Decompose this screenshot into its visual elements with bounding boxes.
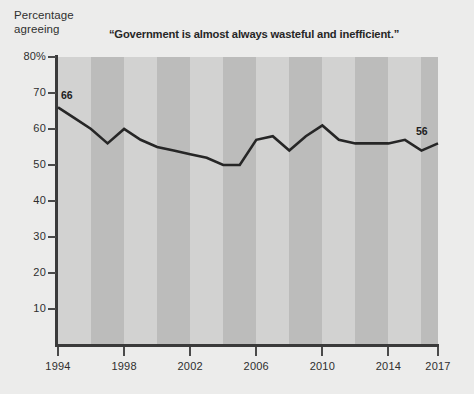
data-point-label: 66	[61, 89, 73, 101]
series-polyline	[58, 107, 438, 165]
chart-page: Percentage agreeing “Government is almos…	[0, 0, 474, 394]
data-point-label: 56	[416, 125, 428, 137]
series-line-chart	[0, 0, 474, 394]
